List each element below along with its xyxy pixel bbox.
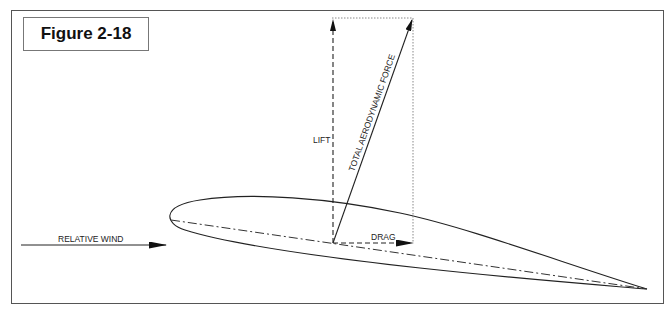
lift-label: LIFT	[313, 135, 330, 145]
chord-line	[171, 220, 647, 289]
total-force-label: TOTAL AERODYNAMIC FORCE	[346, 53, 397, 173]
drag-label: DRAG	[371, 232, 396, 242]
relative-wind-label: RELATIVE WIND	[58, 234, 124, 244]
airfoil-diagram: LIFT TOTAL AERODYNAMIC FORCE DRAG RELATI…	[0, 0, 672, 312]
total-aerodynamic-force-vector	[333, 20, 412, 243]
